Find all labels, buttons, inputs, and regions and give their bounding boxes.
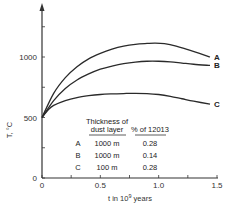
x-ticks: 00.51.01.5 bbox=[40, 175, 223, 190]
curve-c bbox=[42, 93, 210, 117]
y-tick-label: 500 bbox=[24, 114, 38, 123]
y-axis-label: T, °C bbox=[5, 121, 14, 138]
curve-b bbox=[42, 61, 210, 117]
legend-rows: A1000 m0.28B1000 m0.14C100 m0.28 bbox=[75, 139, 157, 172]
legend-row-thickness: 1000 m bbox=[94, 151, 119, 160]
curves bbox=[42, 43, 210, 117]
legend-header-percent: % of 12013 bbox=[131, 125, 169, 134]
y-tick-label: 1000 bbox=[19, 53, 37, 62]
axes bbox=[40, 3, 219, 178]
y-tick-label: 0 bbox=[33, 174, 38, 183]
curve-label-c: C bbox=[214, 100, 220, 109]
y-axis-arrow-icon bbox=[40, 3, 45, 11]
y-ticks: 05001000 bbox=[19, 27, 45, 183]
x-tick-label: 0 bbox=[40, 181, 45, 190]
legend-row-label: A bbox=[75, 139, 80, 148]
x-tick-label: 1.0 bbox=[153, 181, 165, 190]
legend-row-thickness: 100 m bbox=[97, 163, 118, 172]
legend-table: Thickness of dust layer % of 12013 A1000… bbox=[75, 117, 169, 172]
line-chart: 05001000 00.51.01.5 ABC T, °C t in 109 y… bbox=[0, 0, 227, 206]
curve-label-b: B bbox=[214, 61, 220, 70]
x-tick-label: 0.5 bbox=[95, 181, 107, 190]
legend-row-label: B bbox=[75, 151, 80, 160]
curve-labels: ABC bbox=[214, 53, 220, 109]
x-axis-label: t in 109 years bbox=[108, 193, 152, 203]
legend-row-percent: 0.14 bbox=[143, 151, 158, 160]
legend-row-label: C bbox=[75, 163, 81, 172]
x-axis-label-tail: years bbox=[132, 194, 153, 203]
curve-a bbox=[42, 43, 210, 117]
x-tick-label: 1.5 bbox=[211, 181, 223, 190]
legend-header-thickness-line2: dust layer bbox=[91, 125, 124, 134]
x-axis-label-base: t in 10 bbox=[108, 194, 128, 203]
legend-row-thickness: 1000 m bbox=[94, 139, 119, 148]
legend-row-percent: 0.28 bbox=[143, 139, 158, 148]
legend-row-percent: 0.28 bbox=[143, 163, 158, 172]
